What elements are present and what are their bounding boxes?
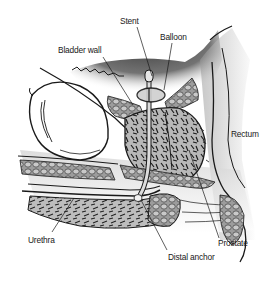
pubic-bone — [30, 82, 109, 160]
bulb — [148, 194, 180, 227]
label-rectum: Rectum — [231, 128, 259, 139]
label-distal-anchor: Distal anchor — [168, 251, 215, 262]
balloon — [137, 88, 165, 102]
label-urethra: Urethra — [28, 234, 55, 245]
label-balloon: Balloon — [160, 31, 187, 42]
stent-anatomy-diagram: Stent Balloon Bladder wall Rectum Urethr… — [0, 0, 275, 282]
label-bladder-wall: Bladder wall — [58, 44, 101, 55]
label-prostate: Prostate — [218, 237, 248, 248]
distal-anchor — [134, 195, 142, 202]
label-stent: Stent — [120, 15, 139, 26]
